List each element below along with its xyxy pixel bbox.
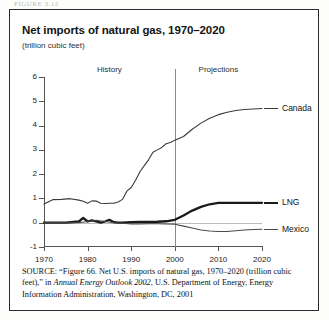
y-tick-label: 1 <box>21 194 37 202</box>
x-tick-label: 2010 <box>198 255 238 264</box>
y-tick-label: -1 <box>21 243 37 251</box>
leader-line-canada <box>264 108 278 109</box>
page-header-stub: FIGURE 3.12 <box>14 0 104 7</box>
series-label-lng: LNG <box>282 197 299 207</box>
history-label: History <box>74 65 144 74</box>
y-tick-label: 3 <box>21 145 37 153</box>
series-line-lng <box>44 203 262 223</box>
y-tick-label: 4 <box>21 121 37 129</box>
x-tick-label: 1990 <box>111 255 151 264</box>
source-label: SOURCE: <box>22 267 57 276</box>
projections-label: Projections <box>183 65 253 74</box>
source-note: SOURCE: “Figure 66. Net U.S. imports of … <box>22 266 304 300</box>
series-label-mexico: Mexico <box>282 224 309 234</box>
y-tick-label: 0 <box>21 218 37 226</box>
plot-area: -10123456 197019801990200020102020 Histo… <box>44 77 262 247</box>
leader-line-lng <box>264 202 278 204</box>
y-tick-label: 2 <box>21 170 37 178</box>
x-tick-label: 1970 <box>24 255 64 264</box>
figure-page: FIGURE 3.12 Net imports of natural gas, … <box>0 0 329 320</box>
x-tick <box>262 246 263 251</box>
source-publication-title: Annual Energy Outlook 2002 <box>54 278 151 287</box>
series-line-canada <box>44 109 262 204</box>
y-tick-label: 6 <box>21 73 37 81</box>
y-tick-label: 5 <box>21 97 37 105</box>
x-tick-label: 1980 <box>68 255 108 264</box>
chart-title: Net imports of natural gas, 1970–2020 <box>22 24 225 36</box>
x-tick-label: 2000 <box>155 255 195 264</box>
series-lines <box>44 77 262 247</box>
leader-line-mexico <box>264 229 278 230</box>
chart-subtitle: (trillion cubic feet) <box>22 41 85 50</box>
series-label-canada: Canada <box>282 103 312 113</box>
x-tick-label: 2020 <box>242 255 282 264</box>
